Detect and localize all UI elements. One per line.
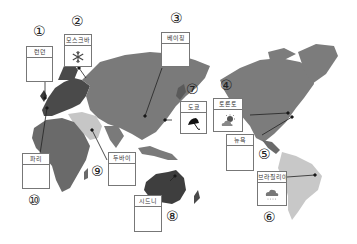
europe-region xyxy=(42,78,90,116)
city-number: ③ xyxy=(170,11,183,25)
city-name: 모스크바 xyxy=(65,35,91,46)
city-number: ⑦ xyxy=(186,82,199,96)
madagascar-region xyxy=(84,168,88,180)
city-box-beijing[interactable]: 베이징 xyxy=(161,32,190,67)
city-name: 시드니 xyxy=(135,196,161,207)
uk-region xyxy=(40,90,47,102)
city-box-london[interactable]: 런던 xyxy=(26,46,53,82)
city-number: ② xyxy=(71,14,84,28)
city-name: 두바이 xyxy=(109,153,135,164)
city-name: 도쿄 xyxy=(181,102,206,113)
answer-area[interactable] xyxy=(227,146,253,171)
city-name: 런던 xyxy=(27,47,52,58)
answer-area[interactable] xyxy=(109,164,135,186)
city-number: ⑧ xyxy=(166,209,179,223)
city-box-sydney[interactable]: 시드니 xyxy=(134,195,162,232)
new-zealand-region xyxy=(194,190,200,204)
city-number: ① xyxy=(33,24,46,38)
answer-area[interactable] xyxy=(162,44,189,67)
snowflake-icon xyxy=(71,50,85,64)
umbrella-icon xyxy=(187,117,201,131)
city-box-tokyo[interactable]: 도쿄 xyxy=(180,101,207,134)
city-name: 토론토 xyxy=(214,99,242,110)
city-name: 파리 xyxy=(23,154,49,165)
city-number: ④ xyxy=(220,78,233,92)
rain-cloud-icon xyxy=(264,188,280,202)
answer-area[interactable] xyxy=(27,58,52,82)
city-number: ⑩ xyxy=(28,193,41,207)
arctic-islands-region xyxy=(268,48,296,60)
city-box-toronto[interactable]: 토론토 xyxy=(213,98,243,132)
city-box-brasilia[interactable]: 브라질리아 xyxy=(257,171,287,206)
answer-area[interactable] xyxy=(135,207,161,232)
city-name: 뉴욕 xyxy=(227,135,253,146)
city-box-new-york[interactable]: 뉴욕 xyxy=(226,134,254,171)
city-number: ⑥ xyxy=(263,210,276,224)
city-box-paris[interactable]: 파리 xyxy=(22,153,50,189)
answer-area[interactable] xyxy=(23,165,49,189)
southeast-asia-region xyxy=(138,146,178,160)
india-region xyxy=(104,126,124,148)
sun-behind-cloud-icon xyxy=(220,114,236,128)
city-number: ⑨ xyxy=(91,164,104,178)
city-box-dubai[interactable]: 두바이 xyxy=(108,152,136,186)
city-name: 브라질리아 xyxy=(258,172,286,183)
city-number: ⑤ xyxy=(258,147,271,161)
city-box-moscow[interactable]: 모스크바 xyxy=(64,34,92,67)
city-name: 베이징 xyxy=(162,33,189,44)
